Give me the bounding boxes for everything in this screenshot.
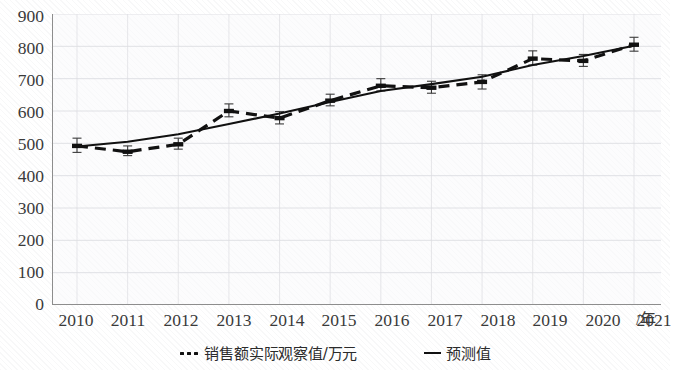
- x-axis-tick-label: 2017: [422, 311, 468, 329]
- x-axis-tick-label: 2016: [369, 311, 415, 329]
- observed-series-line: [77, 45, 634, 152]
- legend-item-observed: 销售额实际观察值/万元: [179, 342, 357, 363]
- plot-svg: [53, 14, 661, 305]
- plot-area: [52, 14, 661, 305]
- x-axis-tick-label: 2019: [527, 311, 573, 329]
- legend-item-predicted: 预测值: [423, 342, 490, 363]
- dotted-line-icon: [179, 348, 201, 358]
- y-axis-tick-label: 900: [2, 8, 44, 25]
- solid-line-icon: [423, 348, 443, 358]
- y-axis-tick-label: 800: [2, 40, 44, 57]
- x-axis-tick-label: 2013: [211, 311, 257, 329]
- x-axis-tick-label: 2011: [105, 311, 151, 329]
- y-axis-tick-label: 200: [2, 232, 44, 249]
- x-axis-tick-label: 2015: [316, 311, 362, 329]
- y-axis-tick-label: 300: [2, 200, 44, 217]
- y-axis-tick-label: 100: [2, 264, 44, 281]
- x-axis-unit-label: /年: [636, 311, 656, 329]
- y-axis-tick-label: 400: [2, 168, 44, 185]
- chart-legend: 销售额实际观察值/万元 预测值: [0, 342, 670, 363]
- legend-label-predicted: 预测值: [446, 342, 490, 363]
- y-axis-tick-label: 0: [2, 296, 44, 313]
- y-axis-tick-label: 700: [2, 72, 44, 89]
- legend-label-observed: 销售额实际观察值/万元: [204, 342, 357, 363]
- y-axis-tick-label: 500: [2, 136, 44, 153]
- x-axis-tick-label: 2012: [158, 311, 204, 329]
- y-axis-tick-label: 600: [2, 104, 44, 121]
- x-axis-tick-label: 2014: [264, 311, 310, 329]
- x-axis-tick-label: 2010: [53, 311, 99, 329]
- x-axis-tick-label: 2020: [580, 311, 626, 329]
- x-axis-tick-label: 2018: [475, 311, 521, 329]
